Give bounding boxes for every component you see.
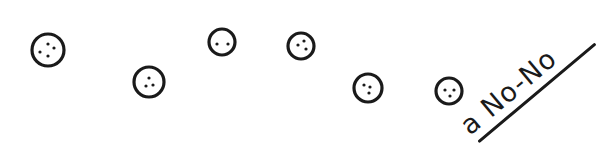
- dot: [38, 50, 41, 53]
- dot: [443, 88, 446, 91]
- dot: [52, 46, 55, 49]
- dot: [226, 42, 229, 45]
- dot: [151, 83, 154, 86]
- dotted-circle-icon: [134, 67, 164, 97]
- dot: [215, 42, 218, 45]
- dotted-circle-icon: [436, 78, 462, 104]
- dot: [144, 84, 147, 87]
- dot: [302, 39, 305, 42]
- dot: [46, 54, 49, 57]
- dot: [452, 88, 455, 91]
- circle-outline: [134, 67, 164, 97]
- circle-outline: [288, 33, 314, 59]
- dot: [368, 85, 371, 88]
- circle-outline: [436, 78, 462, 104]
- dot: [362, 83, 365, 86]
- dotted-circles-group: [32, 29, 462, 104]
- dotted-circle-icon: [32, 34, 64, 66]
- dotted-circle-icon: [354, 74, 382, 102]
- caption-group: a No-No: [454, 18, 594, 144]
- circle-outline: [32, 34, 64, 66]
- dotted-circle-icon: [209, 29, 235, 55]
- dotted-circle-icon: [288, 33, 314, 59]
- dot: [296, 43, 299, 46]
- dot: [367, 91, 370, 94]
- circle-outline: [354, 74, 382, 102]
- caption-text: a No-No: [454, 42, 563, 140]
- dot: [304, 47, 307, 50]
- dot: [448, 94, 451, 97]
- droodle-drawing: a No-No: [0, 0, 608, 144]
- dot: [46, 42, 49, 45]
- dot: [147, 76, 150, 79]
- circle-outline: [209, 29, 235, 55]
